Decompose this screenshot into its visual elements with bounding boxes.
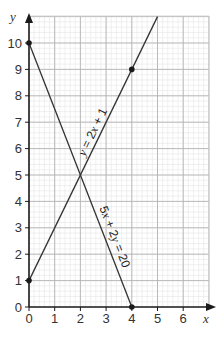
y-tick-label: 0: [15, 300, 22, 315]
x-tick-label: 0: [25, 311, 32, 326]
marked-point: [129, 304, 135, 310]
marked-point: [26, 40, 32, 46]
x-tick-label: 3: [102, 311, 109, 326]
y-tick-label: 4: [15, 194, 22, 209]
x-tick-label: 1: [51, 311, 58, 326]
marked-point: [129, 67, 135, 73]
x-axis-arrow-icon: [206, 303, 216, 311]
x-axis-label: x: [202, 311, 209, 326]
y-tick-label: 2: [15, 247, 22, 262]
series-label-2: 5x + 2y = 20: [97, 204, 134, 270]
x-tick-label: 5: [154, 311, 161, 326]
y-tick-label: 5: [15, 168, 22, 183]
y-tick-label: 3: [15, 220, 22, 235]
series-lines: [29, 17, 158, 307]
y-axis-arrow-icon: [25, 13, 33, 23]
label-part: + 1: [89, 105, 111, 130]
y-tick-label: 1: [15, 273, 22, 288]
y-tick-label: 9: [15, 62, 22, 77]
linear-graph-chart: 0123456012345678910 y = 2x + 15x + 2y = …: [0, 0, 218, 341]
series-labels: y = 2x + 15x + 2y = 20: [75, 105, 134, 269]
y-axis-label: y: [8, 9, 16, 24]
x-tick-label: 4: [128, 311, 135, 326]
y-tick-label: 6: [15, 141, 22, 156]
y-tick-label: 8: [15, 88, 22, 103]
x-tick-label: 2: [77, 311, 84, 326]
y-tick-label: 10: [8, 36, 22, 51]
x-tick-label: 6: [180, 311, 187, 326]
y-tick-label: 7: [15, 115, 22, 130]
marked-point: [26, 278, 32, 284]
